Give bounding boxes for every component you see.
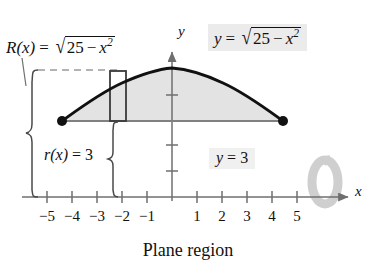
outer-radius-brace <box>26 70 38 197</box>
outer-radius-equals: = <box>39 38 49 57</box>
inner-radius-label: r(x)=3 <box>44 147 93 163</box>
line-equation-lhs: y <box>216 149 223 166</box>
x-tick-label: −3 <box>86 208 108 225</box>
x-tick-label: −2 <box>111 208 133 225</box>
x-tick-label: −1 <box>136 208 158 225</box>
endpoint-right-dot <box>278 116 288 126</box>
inner-radius-brace <box>108 122 118 197</box>
curve-equation-equals: = <box>226 29 236 48</box>
line-equation-value: 3 <box>240 149 248 166</box>
plane-region-figure: R(x)=√25−x2 y=√25−x2 r(x)=3 y=3 y x −5 −… <box>0 0 376 275</box>
x-tick-label: 3 <box>236 208 258 225</box>
x-tick-label: 5 <box>286 208 308 225</box>
x-axis-label: x <box>355 184 362 199</box>
curve-equation-label: y=√25−x2 <box>208 24 307 51</box>
outer-radius-leader-line <box>22 58 26 86</box>
radical-sign-icon: √ <box>242 28 252 46</box>
x-tick-label: 2 <box>211 208 233 225</box>
x-tick-label: −4 <box>61 208 83 225</box>
y-axis-label: y <box>178 24 185 39</box>
line-equation-label: y=3 <box>209 148 255 169</box>
figure-caption: Plane region <box>0 240 376 261</box>
inner-radius-equals: = <box>72 146 81 163</box>
line-equation-equals: = <box>227 149 236 166</box>
inner-radius-value: 3 <box>85 146 93 163</box>
outer-radius-lhs: R(x) <box>6 38 35 57</box>
outer-radius-radical: √25−x2 <box>53 36 115 56</box>
x-tick-label: −5 <box>36 208 58 225</box>
x-tick-label: 1 <box>186 208 208 225</box>
endpoint-left-dot <box>57 116 67 126</box>
radical-sign-icon: √ <box>55 37 65 55</box>
curve-equation-lhs: y <box>214 29 222 48</box>
inner-radius-lhs: r(x) <box>44 146 68 163</box>
x-tick-label: 4 <box>261 208 283 225</box>
curve-equation-radical: √25−x2 <box>239 27 301 47</box>
outer-radius-label: R(x)=√25−x2 <box>6 36 115 56</box>
